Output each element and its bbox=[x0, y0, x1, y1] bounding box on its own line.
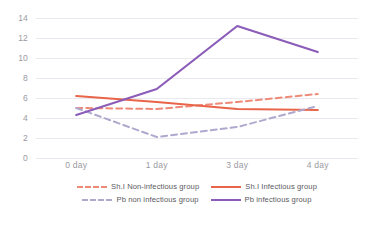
y-tick-label: 0 bbox=[23, 153, 28, 163]
chart-legend: Sh.I Non-infectious groupSh.I Infectious… bbox=[36, 180, 358, 206]
series-line bbox=[76, 94, 318, 109]
legend-swatch-icon bbox=[211, 196, 241, 204]
y-tick-label: 6 bbox=[23, 93, 28, 103]
y-tick-label: 4 bbox=[23, 113, 28, 123]
y-tick-label: 8 bbox=[23, 73, 28, 83]
x-tick-label: 0 day bbox=[36, 160, 117, 174]
legend-swatch-icon bbox=[82, 196, 112, 204]
legend-entry[interactable]: Pb infectious group bbox=[211, 195, 312, 204]
legend-label: Sh.I Infectious group bbox=[245, 182, 317, 191]
legend-entry[interactable]: Sh.I Non-infectious group bbox=[77, 182, 199, 191]
x-tick-label: 1 day bbox=[117, 160, 198, 174]
series-line bbox=[76, 26, 318, 115]
legend-label: Sh.I Non-infectious group bbox=[111, 182, 199, 191]
legend-label: Pb infectious group bbox=[245, 195, 312, 204]
x-tick-label: 3 day bbox=[197, 160, 278, 174]
legend-entry[interactable]: Sh.I Infectious group bbox=[211, 182, 317, 191]
y-axis: 02468101214 bbox=[0, 18, 32, 158]
legend-swatch-icon bbox=[211, 183, 241, 191]
x-axis: 0 day1 day3 day4 day bbox=[36, 160, 358, 174]
x-tick-label: 4 day bbox=[278, 160, 359, 174]
gridline-0 bbox=[36, 158, 358, 159]
line-chart: 02468101214 0 day1 day3 day4 day Sh.I No… bbox=[0, 0, 381, 228]
y-tick-label: 12 bbox=[18, 33, 28, 43]
legend-entry[interactable]: Pb non infectious group bbox=[82, 195, 198, 204]
plot-area bbox=[36, 18, 358, 158]
legend-swatch-icon bbox=[77, 183, 107, 191]
y-tick-label: 2 bbox=[23, 133, 28, 143]
legend-label: Pb non infectious group bbox=[116, 195, 198, 204]
legend-row: Sh.I Non-infectious groupSh.I Infectious… bbox=[36, 180, 358, 193]
legend-row: Pb non infectious groupPb infectious gro… bbox=[36, 193, 358, 206]
y-tick-label: 10 bbox=[18, 53, 28, 63]
series-layer bbox=[36, 18, 358, 158]
y-tick-label: 14 bbox=[18, 13, 28, 23]
